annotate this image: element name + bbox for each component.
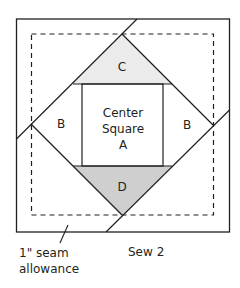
- label-c: C: [118, 60, 126, 74]
- label-d: D: [117, 180, 126, 194]
- label-seam-line2: allowance: [19, 262, 79, 276]
- label-b-right: B: [183, 118, 191, 132]
- label-sew-step: Sew 2: [128, 245, 164, 259]
- label-seam-line1: 1" seam: [19, 246, 69, 260]
- triangle-c: [73, 34, 172, 84]
- label-center-line3: A: [119, 138, 128, 152]
- seam-allowance-leader: [60, 225, 68, 243]
- label-center-line1: Center: [103, 106, 143, 120]
- label-b-left: B: [57, 117, 65, 131]
- label-center-line2: Square: [102, 122, 144, 136]
- quilt-block-diagram: C D B B Center Square A 1" seam allowanc…: [0, 0, 240, 288]
